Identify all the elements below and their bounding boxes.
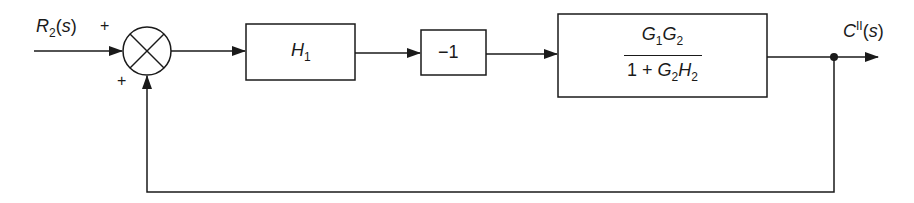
input-plus-sign: + [100, 17, 109, 35]
block-h1-label: H1 [291, 40, 311, 64]
block-diagram-canvas [0, 0, 914, 203]
takeoff-point-dot [830, 53, 838, 61]
transfer-function-fraction: G1G2 1 + G2H2 [558, 14, 767, 97]
denominator: 1 + G2H2 [627, 59, 698, 88]
numerator: G1G2 [642, 23, 683, 52]
input-label: R2(s) [36, 16, 77, 40]
fraction-bar [624, 55, 702, 57]
block-neg-one-label: −1 [438, 42, 459, 63]
output-label: CII(s) [843, 19, 884, 42]
summing-junction [123, 27, 171, 75]
feedback-plus-sign: + [117, 72, 126, 90]
